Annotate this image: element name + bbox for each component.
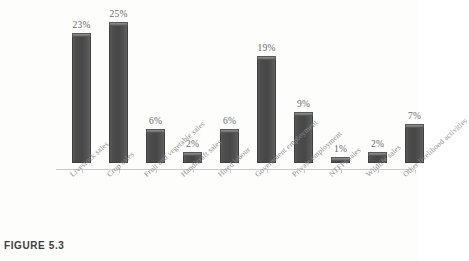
bar-front-face [257,60,276,163]
bar-value-label: 1% [334,144,347,154]
bar-value-label: 6% [223,116,236,126]
bar-crop-sales: 25% [109,22,128,163]
bar-value-label: 19% [257,43,275,53]
bar-column [257,56,276,163]
bar-column [72,33,91,163]
bar-value-label: 2% [371,139,384,149]
bar-front-face [109,26,128,163]
bar-value-label: 23% [72,20,90,30]
bar-livestock-sales: 23% [72,33,91,163]
bar-value-label: 9% [297,99,310,109]
bar-front-face [72,37,91,163]
category-axis-labels: Livestock salesCrop salesFruit and veget… [0,170,418,232]
figure-caption: FIGURE 5.3 [4,240,64,251]
bar-value-label: 6% [149,116,162,126]
bar-government-employment: 19% [257,56,276,163]
bar-column [109,22,128,163]
bar-value-label: 7% [408,111,421,121]
bar-value-label: 25% [109,9,127,19]
